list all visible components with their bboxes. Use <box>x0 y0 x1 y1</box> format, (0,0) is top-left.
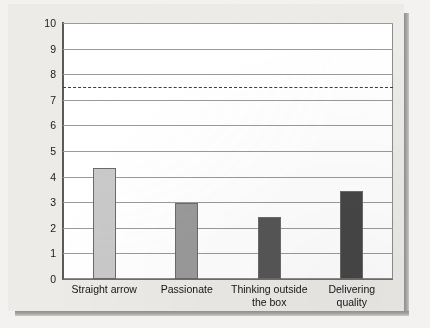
y-tick-label-5: 5 <box>50 145 56 157</box>
bar[interactable] <box>340 191 363 279</box>
gridline-6 <box>63 125 393 126</box>
gridline-7 <box>63 100 393 101</box>
gridline-10 <box>63 23 393 24</box>
y-tick-label-0: 0 <box>50 273 56 285</box>
y-tick-label-9: 9 <box>50 43 56 55</box>
gridline-5 <box>63 151 393 152</box>
figure-root: 012345678910 Straight arrowPassionateThi… <box>0 0 430 328</box>
x-axis-category-label: Thinking outside the box <box>231 283 307 308</box>
bar[interactable] <box>175 203 198 279</box>
x-axis-category-label: Straight arrow <box>72 283 137 296</box>
x-axis-category-label: Passionate <box>161 283 213 296</box>
y-tick-label-10: 10 <box>44 17 56 29</box>
y-tick-label-7: 7 <box>50 94 56 106</box>
page-shadow-bottom <box>15 311 409 316</box>
bar[interactable] <box>258 217 281 279</box>
gridline-0 <box>63 279 393 280</box>
scanned-figure-card: 012345678910 Straight arrowPassionateThi… <box>8 4 404 311</box>
y-tick-label-6: 6 <box>50 119 56 131</box>
bar-chart: 012345678910 Straight arrowPassionateThi… <box>63 23 393 279</box>
y-tick-label-4: 4 <box>50 171 56 183</box>
y-tick-label-2: 2 <box>50 222 56 234</box>
gridline-8 <box>63 74 393 75</box>
reference-line <box>63 87 393 88</box>
y-tick-label-3: 3 <box>50 196 56 208</box>
y-tick-label-8: 8 <box>50 68 56 80</box>
bar[interactable] <box>93 168 116 279</box>
y-tick-label-1: 1 <box>50 247 56 259</box>
page-shadow-right <box>404 13 409 316</box>
gridline-9 <box>63 49 393 50</box>
x-axis-category-label: Delivering quality <box>328 283 375 308</box>
